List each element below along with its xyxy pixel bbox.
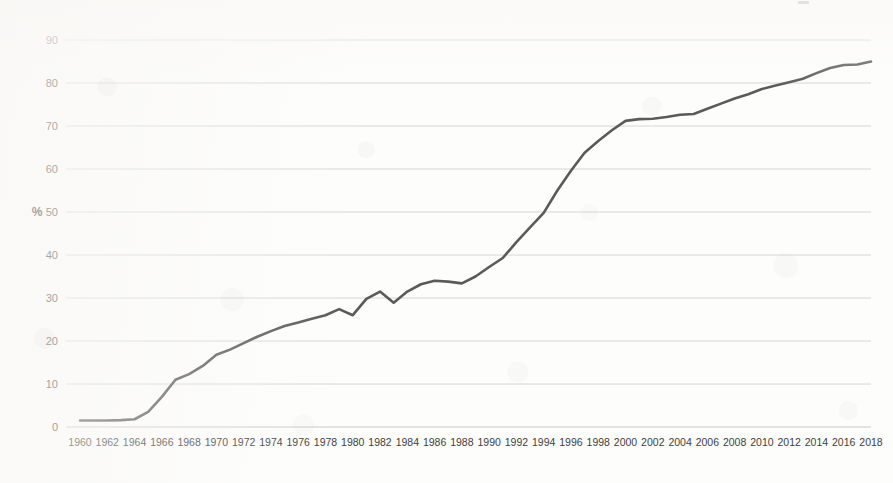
line-chart: 0102030405060708090 19601962196419661968… bbox=[0, 0, 893, 483]
x-tick-1976: 1976 bbox=[287, 436, 311, 448]
y-axis-tick-labels: 0102030405060708090 bbox=[46, 34, 58, 433]
x-tick-1986: 1986 bbox=[423, 436, 447, 448]
x-tick-2012: 2012 bbox=[777, 436, 801, 448]
x-tick-1994: 1994 bbox=[532, 436, 556, 448]
x-tick-1970: 1970 bbox=[205, 436, 229, 448]
x-tick-1966: 1966 bbox=[150, 436, 174, 448]
x-tick-2008: 2008 bbox=[723, 436, 747, 448]
y-tick-80: 80 bbox=[46, 77, 58, 89]
x-tick-1960: 1960 bbox=[68, 436, 92, 448]
y-tick-0: 0 bbox=[52, 421, 58, 433]
x-tick-1992: 1992 bbox=[505, 436, 529, 448]
x-axis-tick-labels: 1960196219641966196819701972197419761978… bbox=[68, 436, 883, 448]
gridlines-group bbox=[66, 40, 871, 427]
y-tick-90: 90 bbox=[46, 34, 58, 46]
chart-canvas: 0102030405060708090 19601962196419661968… bbox=[0, 0, 893, 483]
y-tick-60: 60 bbox=[46, 163, 58, 175]
x-tick-2014: 2014 bbox=[805, 436, 829, 448]
x-tick-1968: 1968 bbox=[177, 436, 201, 448]
x-tick-2004: 2004 bbox=[668, 436, 692, 448]
x-tick-2010: 2010 bbox=[750, 436, 774, 448]
y-tick-40: 40 bbox=[46, 249, 58, 261]
x-tick-1972: 1972 bbox=[232, 436, 256, 448]
y-tick-70: 70 bbox=[46, 120, 58, 132]
x-tick-1982: 1982 bbox=[368, 436, 392, 448]
x-tick-1996: 1996 bbox=[559, 436, 583, 448]
y-tick-50: 50 bbox=[46, 206, 58, 218]
x-tick-2002: 2002 bbox=[641, 436, 665, 448]
y-tick-20: 20 bbox=[46, 335, 58, 347]
data-series-line bbox=[80, 62, 871, 421]
x-tick-1990: 1990 bbox=[477, 436, 501, 448]
x-tick-2006: 2006 bbox=[696, 436, 720, 448]
x-tick-1980: 1980 bbox=[341, 436, 365, 448]
x-tick-1964: 1964 bbox=[123, 436, 147, 448]
x-tick-2000: 2000 bbox=[614, 436, 638, 448]
y-tick-10: 10 bbox=[46, 378, 58, 390]
top-edge-artifact bbox=[798, 1, 809, 4]
x-tick-1974: 1974 bbox=[259, 436, 283, 448]
x-tick-1978: 1978 bbox=[314, 436, 338, 448]
x-tick-1984: 1984 bbox=[396, 436, 420, 448]
x-tick-1962: 1962 bbox=[96, 436, 120, 448]
x-tick-2018: 2018 bbox=[859, 436, 883, 448]
y-tick-30: 30 bbox=[46, 292, 58, 304]
x-tick-1998: 1998 bbox=[587, 436, 611, 448]
y-axis-title: % bbox=[32, 205, 43, 219]
x-tick-2016: 2016 bbox=[832, 436, 856, 448]
x-tick-1988: 1988 bbox=[450, 436, 474, 448]
